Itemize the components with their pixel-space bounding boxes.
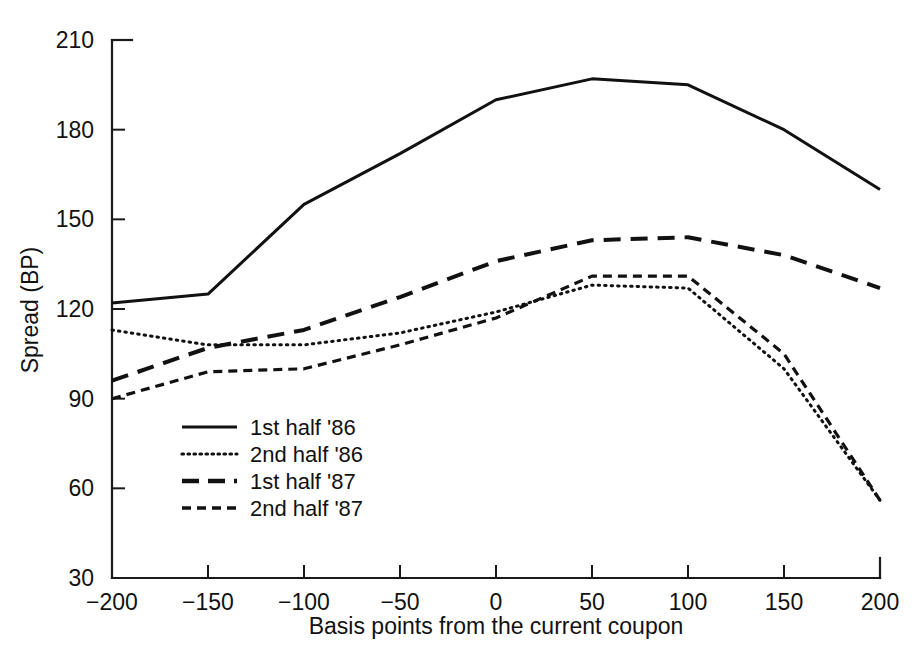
- legend-item: 2nd half '86: [182, 442, 363, 467]
- legend-item: 1st half '86: [182, 415, 356, 440]
- line-chart: 306090120150180210 −200−150−100−50050100…: [0, 0, 924, 664]
- legend-item: 2nd half '87: [182, 496, 363, 521]
- x-tick-label: −200: [86, 589, 138, 615]
- legend-label: 2nd half '86: [250, 442, 363, 467]
- y-tick-label: 30: [68, 565, 94, 591]
- x-tick-label: 200: [861, 589, 899, 615]
- legend-label: 1st half '87: [250, 469, 356, 494]
- y-tick-label: 90: [68, 386, 94, 412]
- x-tick-label: −150: [182, 589, 234, 615]
- y-axis-ticks: [112, 130, 125, 489]
- x-axis-tick-labels: −200−150−100−50050100150200: [86, 589, 899, 615]
- x-tick-label: 50: [579, 589, 605, 615]
- series-line: [112, 276, 880, 500]
- x-axis-title: Basis points from the current coupon: [309, 613, 684, 639]
- y-tick-label: 210: [56, 27, 94, 53]
- x-tick-label: 100: [669, 589, 707, 615]
- x-tick-label: 0: [490, 589, 503, 615]
- y-tick-label: 60: [68, 475, 94, 501]
- x-tick-label: −100: [278, 589, 330, 615]
- x-tick-label: 150: [765, 589, 803, 615]
- y-axis-tick-labels: 306090120150180210: [56, 27, 94, 591]
- series-line: [112, 237, 880, 380]
- x-tick-label: −50: [380, 589, 419, 615]
- chart-legend: 1st half '862nd half '861st half '872nd …: [182, 415, 363, 521]
- series-line: [112, 79, 880, 303]
- y-axis-title: Spread (BP): [17, 247, 43, 374]
- legend-label: 2nd half '87: [250, 496, 363, 521]
- chart-container: 306090120150180210 −200−150−100−50050100…: [0, 0, 924, 664]
- legend-item: 1st half '87: [182, 469, 356, 494]
- x-axis-ticks: [208, 565, 784, 578]
- legend-label: 1st half '86: [250, 415, 356, 440]
- y-tick-label: 120: [56, 296, 94, 322]
- y-tick-label: 150: [56, 206, 94, 232]
- series-group: [112, 79, 880, 500]
- y-tick-label: 180: [56, 117, 94, 143]
